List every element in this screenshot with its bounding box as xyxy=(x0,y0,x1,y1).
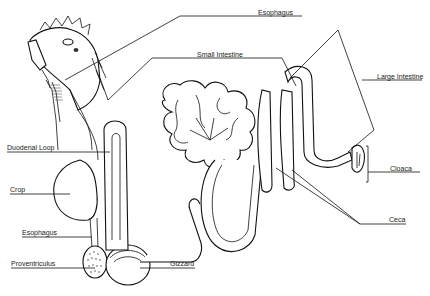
gizzard-organ xyxy=(106,245,150,285)
crop-organ xyxy=(54,160,98,220)
large-intestine xyxy=(285,66,352,167)
label-gizzard: Gizzard xyxy=(170,260,194,267)
ceca-right xyxy=(280,90,294,190)
proventriculus-organ xyxy=(83,246,107,278)
label-cloaca: Cloaca xyxy=(390,165,412,172)
label-crop: Crop xyxy=(10,186,25,193)
ceca-left xyxy=(258,90,272,192)
label-esophagus-top: Esophagus xyxy=(258,9,293,16)
label-esophagus-bottom: Esophagus xyxy=(22,229,57,236)
chicken-head xyxy=(28,16,108,150)
digestive-system-diagram: Esophagus Small Intestine Large Intestin… xyxy=(0,0,430,296)
cloaca-organ xyxy=(352,145,364,172)
small-intestine-coil xyxy=(162,81,255,168)
label-small-intestine: Small Intestine xyxy=(197,51,243,58)
label-ceca: Ceca xyxy=(389,216,405,223)
label-large-intestine: Large Intestine xyxy=(377,73,423,80)
label-proventriculus: Proventriculus xyxy=(11,260,55,267)
label-duodenal-loop: Duodenal Loop xyxy=(7,144,55,151)
anatomy-drawing xyxy=(0,0,430,296)
duodenal-loop xyxy=(104,121,128,250)
